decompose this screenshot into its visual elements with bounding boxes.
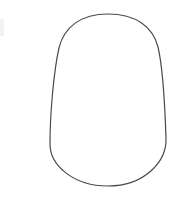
canvas-background (0, 0, 190, 201)
drawing-canvas (0, 0, 190, 201)
left-edge-smudge-artifact (0, 19, 4, 36)
outline-shape-svg (0, 0, 190, 201)
